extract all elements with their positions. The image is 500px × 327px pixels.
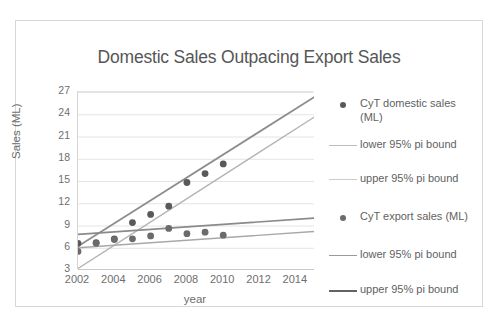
y-tick-label: 24 xyxy=(46,106,70,118)
legend-item[interactable]: CyT export sales (ML) xyxy=(326,210,498,225)
plot-area xyxy=(77,91,313,269)
legend-marker-dot xyxy=(326,210,360,225)
x-tick-label: 2002 xyxy=(65,273,89,285)
chart-title: Domestic Sales Outpacing Export Sales xyxy=(16,47,482,68)
y-axis-label: Sales (ML) xyxy=(10,103,22,159)
legend-item-label: CyT domestic sales (ML) xyxy=(360,97,456,124)
data-point-marker xyxy=(165,225,172,232)
x-tick-label: 2004 xyxy=(101,273,125,285)
legend-item-label: lower 95% pi bound xyxy=(360,138,457,152)
chart-legend: CyT domestic sales (ML)lower 95% pi boun… xyxy=(326,97,498,310)
data-point-marker xyxy=(202,229,209,236)
y-tick-label: 6 xyxy=(46,240,70,252)
data-point-marker xyxy=(78,240,81,247)
plot-canvas xyxy=(77,91,313,269)
legend-marker-line xyxy=(326,138,360,153)
legend-item[interactable]: lower 95% pi bound xyxy=(326,248,498,263)
x-tick-label: 2006 xyxy=(137,273,161,285)
data-point-marker xyxy=(220,232,227,239)
legend-dot-icon xyxy=(340,102,346,108)
y-tick-label: 21 xyxy=(46,129,70,141)
x-tick-label: 2008 xyxy=(174,273,198,285)
x-tick-label: 2014 xyxy=(283,273,307,285)
legend-item-label: CyT export sales (ML) xyxy=(360,210,468,224)
legend-item-label: lower 95% pi bound xyxy=(360,248,457,262)
x-tick-label: 2012 xyxy=(246,273,270,285)
chart-card: Domestic Sales Outpacing Export Sales Sa… xyxy=(15,20,483,307)
data-point-marker xyxy=(184,179,191,186)
data-point-marker xyxy=(147,211,154,218)
legend-marker-line xyxy=(326,248,360,263)
legend-marker-line xyxy=(326,283,360,298)
y-tick-label: 12 xyxy=(46,195,70,207)
data-point-marker xyxy=(93,240,100,247)
legend-item-label: upper 95% pi bound xyxy=(360,283,458,297)
legend-line-icon xyxy=(329,290,357,292)
x-axis-label: year xyxy=(77,293,313,305)
x-tick-label: 2010 xyxy=(210,273,234,285)
data-point-marker xyxy=(147,232,154,239)
y-tick-label: 15 xyxy=(46,173,70,185)
data-point-marker xyxy=(220,161,227,168)
chart-svg xyxy=(78,92,314,270)
pi-bound-line xyxy=(78,97,314,246)
data-point-marker xyxy=(184,230,191,237)
legend-dot-icon xyxy=(340,215,346,221)
legend-item[interactable]: upper 95% pi bound xyxy=(326,283,498,298)
y-tick-label: 9 xyxy=(46,218,70,230)
legend-item[interactable]: lower 95% pi bound xyxy=(326,138,498,153)
y-tick-label: 27 xyxy=(46,84,70,96)
legend-marker-dot xyxy=(326,97,360,112)
legend-marker-line xyxy=(326,172,360,187)
legend-item-label: upper 95% pi bound xyxy=(360,172,458,186)
legend-line-icon xyxy=(329,145,357,146)
data-point-marker xyxy=(165,203,172,210)
y-tick-label: 18 xyxy=(46,151,70,163)
data-point-marker xyxy=(78,248,81,255)
legend-item[interactable]: CyT domestic sales (ML) xyxy=(326,97,498,124)
legend-line-icon xyxy=(329,255,357,256)
legend-item[interactable]: upper 95% pi bound xyxy=(326,172,498,187)
legend-line-icon xyxy=(329,179,357,180)
data-point-marker xyxy=(129,219,136,226)
data-point-marker xyxy=(202,170,209,177)
data-point-marker xyxy=(129,235,136,242)
data-point-marker xyxy=(111,236,118,243)
